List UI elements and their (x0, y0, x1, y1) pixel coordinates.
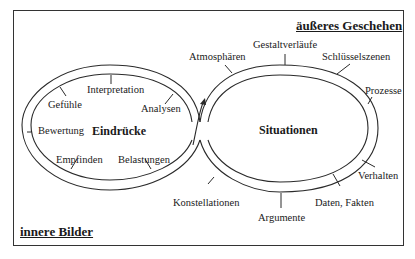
label-konstellationen: Konstellationen (173, 198, 240, 209)
label-empfinden: Empfinden (56, 155, 103, 166)
left-loop-center-label: Eindrücke (92, 125, 146, 137)
label-schluesselszenen: Schlüsselszenen (322, 52, 390, 63)
label-argumente: Argumente (258, 213, 305, 224)
label-belastungen: Belastungen (118, 155, 170, 166)
label-interpretation: Interpretation (87, 85, 144, 96)
label-analysen: Analysen (141, 104, 181, 115)
right-loop-center-label: Situationen (259, 124, 318, 136)
label-gefuehle: Gefühle (48, 100, 82, 111)
label-verhalten: Verhalten (358, 171, 398, 182)
label-atmosphaeren: Atmosphären (189, 52, 246, 63)
label-bewertung: Bewertung (38, 126, 84, 137)
label-daten-fakten: Daten, Fakten (315, 198, 374, 209)
label-gestaltverlaeufe: Gestaltverläufe (253, 40, 317, 51)
inner-images-title: innere Bilder (20, 225, 93, 238)
arrowhead-icon (200, 98, 206, 105)
direction-arrow (193, 103, 203, 145)
label-prozesse: Prozesse (365, 86, 402, 97)
outer-events-title: äußeres Geschehen (296, 19, 402, 32)
